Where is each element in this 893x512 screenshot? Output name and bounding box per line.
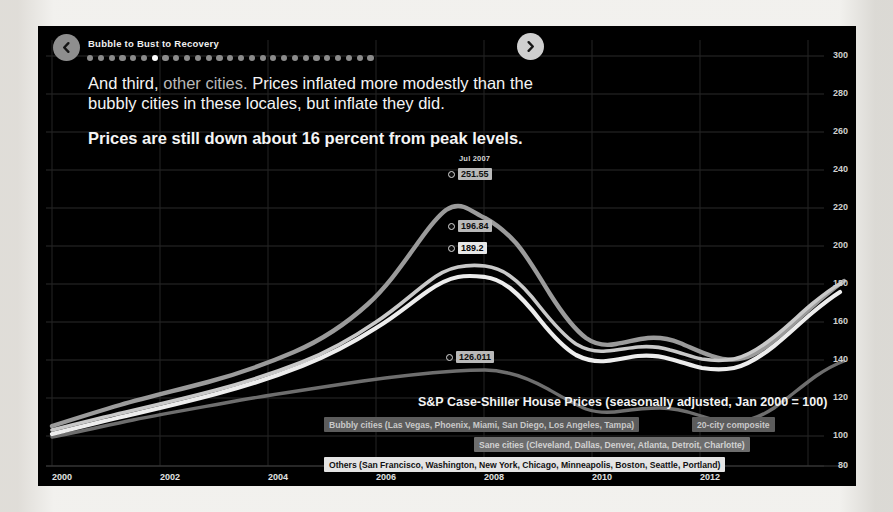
pagination-dot-8[interactable] xyxy=(162,55,168,61)
narrative-p1-emphasis: other cities. xyxy=(163,74,247,92)
y-tick-200: 200 xyxy=(822,240,848,250)
pagination-dot-21[interactable] xyxy=(303,55,309,61)
tooltip-value: 126.011 xyxy=(456,351,494,363)
next-slide-button[interactable] xyxy=(517,33,544,60)
pagination-dot-13[interactable] xyxy=(216,55,222,61)
pagination-dot-12[interactable] xyxy=(206,55,212,61)
x-tick-2008: 2008 xyxy=(484,472,504,482)
x-tick-2004: 2004 xyxy=(268,472,288,482)
pagination-dot-6[interactable] xyxy=(141,55,147,61)
tooltip-marker-icon xyxy=(448,171,455,178)
y-tick-180: 180 xyxy=(822,278,848,288)
tooltip-bubbly-peak[interactable]: Jul 2007 251.55 xyxy=(448,168,492,180)
y-tick-80: 80 xyxy=(822,460,848,470)
y-tick-160: 160 xyxy=(822,316,848,326)
pagination-dot-15[interactable] xyxy=(238,55,244,61)
legend-sane-cities[interactable]: Sane cities (Cleveland, Dallas, Denver, … xyxy=(474,437,750,452)
pagination-dot-9[interactable] xyxy=(173,55,179,61)
pagination-dot-19[interactable] xyxy=(281,55,287,61)
pagination-dot-25[interactable] xyxy=(346,55,352,61)
x-tick-2000: 2000 xyxy=(52,472,72,482)
y-tick-300: 300 xyxy=(822,50,848,60)
narrative-block: And third, other cities. Prices inflated… xyxy=(88,74,543,165)
tooltip-sane[interactable]: 126.011 xyxy=(446,351,494,363)
pagination-dot-14[interactable] xyxy=(227,55,233,61)
legend-others[interactable]: Others (San Francisco, Washington, New Y… xyxy=(324,457,725,472)
y-tick-240: 240 xyxy=(822,164,848,174)
narrative-paragraph-2: Prices are still down about 16 percent f… xyxy=(88,129,543,149)
tooltip-marker-icon xyxy=(448,223,455,230)
pagination-dot-1[interactable] xyxy=(87,55,93,61)
slide-canvas: 300 280 260 240 220 200 180 160 140 120 … xyxy=(38,26,856,486)
pagination-dot-17[interactable] xyxy=(260,55,266,61)
chevron-left-icon xyxy=(60,41,73,54)
pagination-dot-24[interactable] xyxy=(335,55,341,61)
y-tick-220: 220 xyxy=(822,202,848,212)
x-tick-2010: 2010 xyxy=(592,472,612,482)
y-tick-280: 280 xyxy=(822,88,848,98)
x-tick-2006: 2006 xyxy=(376,472,396,482)
tooltip-marker-icon xyxy=(448,245,455,252)
y-tick-100: 100 xyxy=(822,430,848,440)
pagination-dot-7[interactable] xyxy=(152,55,158,61)
pagination-dot-23[interactable] xyxy=(324,55,330,61)
y-tick-140: 140 xyxy=(822,354,848,364)
pagination-dot-26[interactable] xyxy=(357,55,363,61)
tooltip-value: 196.84 xyxy=(458,220,492,232)
x-tick-2012: 2012 xyxy=(700,472,720,482)
y-tick-260: 260 xyxy=(822,126,848,136)
pagination-dot-3[interactable] xyxy=(109,55,115,61)
legend-bubbly-cities[interactable]: Bubbly cities (Las Vegas, Phoenix, Miami… xyxy=(324,417,639,432)
tooltip-value: 189.2 xyxy=(458,242,487,254)
previous-slide-button[interactable] xyxy=(53,34,80,61)
pagination-dot-5[interactable] xyxy=(130,55,136,61)
chart-title: S&P Case-Shiller House Prices (seasonall… xyxy=(418,395,827,409)
pagination-dot-22[interactable] xyxy=(313,55,319,61)
pagination-dot-20[interactable] xyxy=(292,55,298,61)
slide-pagination-dots[interactable] xyxy=(87,55,374,61)
tooltip-others[interactable]: 189.2 xyxy=(448,242,487,254)
pagination-dot-27[interactable] xyxy=(367,55,373,61)
tooltip-marker-icon xyxy=(446,354,453,361)
narrative-p1-part-a: And third, xyxy=(88,74,163,92)
pagination-dot-4[interactable] xyxy=(119,55,125,61)
pagination-dot-18[interactable] xyxy=(270,55,276,61)
series-line-bubbly-cities xyxy=(52,206,844,426)
chevron-right-icon xyxy=(524,40,537,53)
tooltip-composite[interactable]: 196.84 xyxy=(448,220,492,232)
legend-20-city-composite[interactable]: 20-city composite xyxy=(692,417,775,432)
pagination-dot-2[interactable] xyxy=(98,55,104,61)
slide-kicker-title: Bubble to Bust to Recovery xyxy=(88,38,219,49)
pagination-dot-11[interactable] xyxy=(195,55,201,61)
pagination-dot-10[interactable] xyxy=(184,55,190,61)
page-background: 300 280 260 240 220 200 180 160 140 120 … xyxy=(0,0,893,512)
narrative-paragraph-1: And third, other cities. Prices inflated… xyxy=(88,74,543,113)
pagination-dot-16[interactable] xyxy=(249,55,255,61)
tooltip-value: 251.55 xyxy=(458,168,492,180)
x-tick-2002: 2002 xyxy=(160,472,180,482)
